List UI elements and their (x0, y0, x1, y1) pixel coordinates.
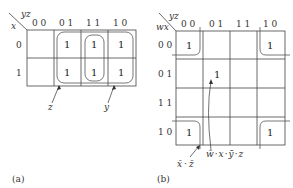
kmap-b-cell: 1 (214, 69, 220, 80)
kmap-a-col-label: 1 0 (113, 18, 128, 28)
kmap-b-col-label: 1 0 (263, 19, 278, 29)
kmap-b-row-label: 1 0 (158, 127, 173, 137)
kmap-b-row-label: 1 1 (158, 98, 172, 108)
kmap-a-caption: (a) (12, 174, 24, 184)
kmap-a-col-label: 0 0 (32, 18, 47, 28)
kmap-b-col-label: 0 1 (209, 19, 223, 29)
kmap-b-col-var: yz (168, 11, 179, 21)
kmap-b-group-label-corners: x̄·z̄ (177, 159, 194, 169)
kmap-b-cell: 1 (186, 40, 192, 51)
kmap-a-col-label: 1 1 (86, 18, 100, 28)
kmap-a-col-label: 0 1 (59, 18, 73, 28)
kmap-a-row-label: 1 (16, 68, 22, 78)
kmap-b-row-label: 0 1 (158, 69, 172, 79)
kmap-b-cell: 1 (186, 127, 192, 138)
kmap-a-cell: 1 (91, 39, 97, 50)
kmap-a-cell: 1 (64, 39, 70, 50)
kmap-b-col-label: 1 1 (236, 19, 250, 29)
kmap-b-row-label: 0 0 (158, 40, 173, 50)
kmap-b-arrow-single (209, 81, 212, 150)
kmap-a-group-label-y: y (103, 102, 110, 112)
kmap-b-cell: 1 (267, 127, 273, 138)
kmap-a: yz x 0 0 0 1 1 1 1 0 0 1 1 1 1 1 1 1 z y… (9, 9, 136, 184)
kmap-a-cell: 1 (118, 39, 124, 50)
kmap-b-cell: 1 (267, 40, 273, 51)
kmap-b: yz wx 0 0 0 1 1 1 1 0 0 0 0 1 1 1 1 0 1 … (156, 11, 290, 184)
kmap-b-col-label: 0 0 (181, 19, 196, 29)
kmap-a-cell: 1 (91, 67, 97, 78)
kmap-a-row-var: x (11, 21, 16, 31)
kmap-b-caption: (b) (157, 174, 170, 184)
kmap-b-row-var: wx (156, 22, 169, 32)
kmap-b-group-label-single: w̄·x·ȳ·z (206, 149, 244, 159)
kmap-a-group-label-z: z (47, 102, 53, 112)
kmap-a-row-label: 0 (16, 40, 22, 50)
kmap-a-cell: 1 (118, 67, 124, 78)
kmap-a-cell: 1 (64, 67, 70, 78)
karnaugh-maps-figure: yz x 0 0 0 1 1 1 1 0 0 1 1 1 1 1 1 1 z y… (0, 0, 293, 188)
kmap-a-col-var: yz (20, 9, 31, 19)
